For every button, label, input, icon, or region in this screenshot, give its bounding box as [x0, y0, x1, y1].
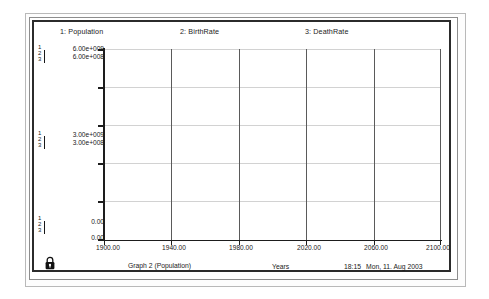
- plot-area[interactable]: 111112222233333: [104, 49, 441, 240]
- y-label-middle-series2: 3.00e+008: [52, 139, 104, 147]
- y-label-middle-series1: 3.00e+009: [52, 131, 104, 139]
- gridline-horizontal: [104, 125, 441, 126]
- bracket-series-3: 3: [38, 56, 45, 62]
- y-label-top-series2: 6.00e+008: [52, 53, 104, 61]
- gridline-horizontal: [104, 201, 441, 202]
- bracket-series-3: 3: [38, 142, 45, 148]
- plot-background: [104, 49, 441, 240]
- timestamp-time: 18:15: [344, 263, 361, 270]
- bracket-series-3: 3: [38, 227, 45, 233]
- y-scale-bracket-bottom[interactable]: 1 2 3: [38, 215, 52, 234]
- y-axis-tick: [98, 125, 105, 127]
- gridline-horizontal: [104, 49, 441, 50]
- timestamp-date: Mon, 11. Aug 2003: [366, 263, 423, 270]
- y-axis-tick: [98, 163, 105, 165]
- graph-window: 1: Population 2: BirthRate 3: DeathRate …: [0, 0, 489, 299]
- x-axis-title: Years: [272, 263, 289, 270]
- lock-icon[interactable]: [44, 256, 56, 270]
- gridline-vertical: [374, 49, 375, 240]
- y-scale-bracket-top[interactable]: 1 2 3: [38, 44, 52, 63]
- legend-item-deathrate[interactable]: 3: DeathRate: [305, 27, 349, 36]
- y-axis-tick: [98, 87, 105, 89]
- y-label-top-series1: 6.00e+009: [52, 45, 104, 53]
- gridline-vertical: [440, 49, 441, 240]
- x-tick-label-2020: 2020.00: [297, 244, 321, 251]
- y-scale-bracket-middle[interactable]: 1 2 3: [38, 130, 52, 149]
- y-axis-tick: [98, 49, 105, 51]
- y-label-bottom-series1: 0.00: [52, 218, 104, 226]
- x-tick-label-1980: 1980.00: [229, 244, 253, 251]
- gridline-horizontal: [104, 87, 441, 88]
- y-label-bottom-series2: 0.00: [52, 234, 104, 242]
- gridline-vertical: [239, 49, 240, 240]
- gridline-horizontal: [104, 163, 441, 164]
- x-tick-label-2060: 2060.00: [364, 244, 388, 251]
- y-axis-tick: [98, 201, 105, 203]
- gridline-vertical: [171, 49, 172, 240]
- x-axis: [103, 240, 442, 241]
- graph-name-label: Graph 2 (Population): [128, 262, 191, 269]
- legend-item-birthrate[interactable]: 2: BirthRate: [180, 27, 219, 36]
- x-tick-label-1900: 1900.00: [96, 244, 120, 251]
- legend-item-population[interactable]: 1: Population: [60, 27, 103, 36]
- x-tick-label-2100: 2100.00: [426, 244, 450, 251]
- gridline-vertical: [306, 49, 307, 240]
- y-axis: [103, 48, 105, 241]
- x-tick-label-1940: 1940.00: [162, 244, 186, 251]
